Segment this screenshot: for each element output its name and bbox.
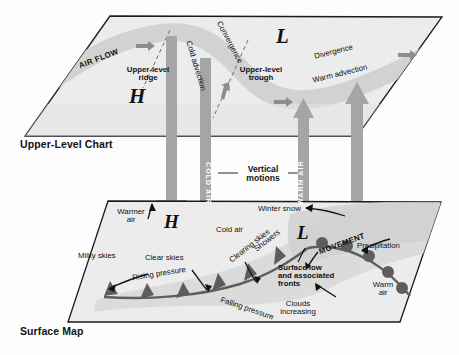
label-upper-level-trough: Upper-level trough bbox=[230, 66, 292, 82]
cold-air-column-label: COLD AIR bbox=[199, 152, 212, 214]
label-clear-skies: Clear skies bbox=[145, 254, 184, 262]
surface-low-symbol: L bbox=[297, 223, 309, 243]
surface-map-title: Surface Map bbox=[20, 326, 84, 337]
label-milky-skies: Milky skies bbox=[78, 252, 116, 260]
label-cold-air: Cold air bbox=[216, 226, 243, 234]
surface-high-symbol: H bbox=[164, 212, 179, 232]
label-clouds-increasing: Clouds increasing bbox=[272, 300, 324, 316]
label-precipitation: Precipitation bbox=[357, 242, 400, 250]
label-warm-air: Warm air bbox=[366, 281, 400, 297]
label-surface-low-and-fronts: Surface low and associated fronts bbox=[278, 264, 334, 289]
label-upper-level-ridge: Upper-level ridge bbox=[117, 66, 179, 82]
upper-level-chart-title: Upper-Level Chart bbox=[20, 139, 113, 150]
weather-diagram: AIR FLOW Upper-level ridge H Cold advect… bbox=[0, 0, 459, 355]
label-vertical-motions: Vertical motions bbox=[238, 165, 288, 183]
upper-high-symbol: H bbox=[129, 85, 145, 107]
label-warmer-air: Warmer air bbox=[110, 208, 152, 224]
label-winter-snow: Winter snow bbox=[258, 205, 301, 213]
upper-low-symbol: L bbox=[276, 25, 289, 47]
